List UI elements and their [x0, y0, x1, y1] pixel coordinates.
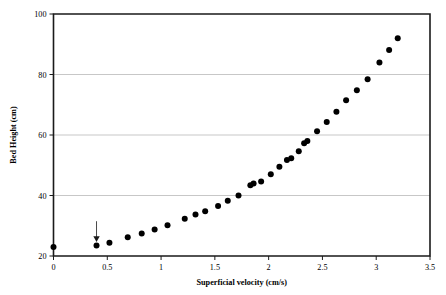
data-point-0-4 [139, 231, 145, 237]
scatter-plot: 00.511.522.533.5 20406080100 Superficial… [0, 0, 446, 295]
data-point-0-29 [376, 59, 382, 65]
y-tick-label-4: 100 [34, 10, 46, 19]
y-tick-label-2: 60 [38, 131, 46, 140]
x-tick-label-2: 1 [159, 263, 163, 272]
gridlines [54, 75, 431, 196]
data-point-0-31 [395, 35, 401, 41]
data-point-0-15 [258, 179, 264, 185]
data-point-0-25 [333, 109, 339, 115]
data-point-0-27 [354, 87, 360, 93]
x-tick-label-7: 3.5 [425, 263, 435, 272]
chart-figure: 00.511.522.533.5 20406080100 Superficial… [0, 0, 446, 295]
data-point-0-2 [106, 240, 112, 246]
data-point-0-30 [386, 47, 392, 53]
data-point-0-5 [152, 226, 158, 232]
y-tick-label-1: 40 [38, 192, 46, 201]
y-tick-label-0: 20 [38, 252, 46, 261]
x-tick-label-0: 0 [51, 263, 55, 272]
data-point-0-0 [51, 244, 57, 250]
data-point-0-9 [202, 208, 208, 214]
data-point-0-22 [304, 138, 310, 144]
y-axis-ticks: 20406080100 [34, 10, 53, 261]
data-point-0-11 [225, 198, 231, 204]
data-point-0-16 [268, 171, 274, 177]
data-point-0-10 [215, 203, 221, 209]
data-point-0-28 [365, 76, 371, 82]
annotation-arrow-head-0 [93, 236, 99, 242]
data-point-0-20 [296, 148, 302, 154]
data-point-0-17 [276, 164, 282, 170]
data-point-0-8 [192, 212, 198, 218]
data-point-0-19 [288, 155, 294, 161]
data-point-0-3 [125, 234, 131, 240]
data-point-0-23 [314, 128, 320, 134]
x-axis-title: Superficial velocity (cm/s) [197, 278, 288, 287]
data-point-0-26 [343, 97, 349, 103]
data-point-0-1 [94, 242, 100, 248]
y-axis-title: Bed Height (cm) [9, 106, 18, 164]
x-tick-label-3: 1.5 [210, 263, 220, 272]
data-point-0-24 [324, 119, 330, 125]
x-tick-label-6: 3 [374, 263, 378, 272]
x-axis-ticks: 00.511.522.533.5 [51, 256, 435, 272]
data-point-0-6 [165, 222, 171, 228]
data-point-0-12 [236, 193, 242, 199]
y-tick-label-3: 80 [38, 71, 46, 80]
x-tick-label-1: 0.5 [102, 263, 112, 272]
data-point-0-7 [182, 216, 188, 222]
x-tick-label-4: 2 [267, 263, 271, 272]
data-points [51, 35, 401, 250]
annotations [93, 221, 99, 242]
data-point-0-14 [251, 180, 257, 186]
x-tick-label-5: 2.5 [317, 263, 327, 272]
